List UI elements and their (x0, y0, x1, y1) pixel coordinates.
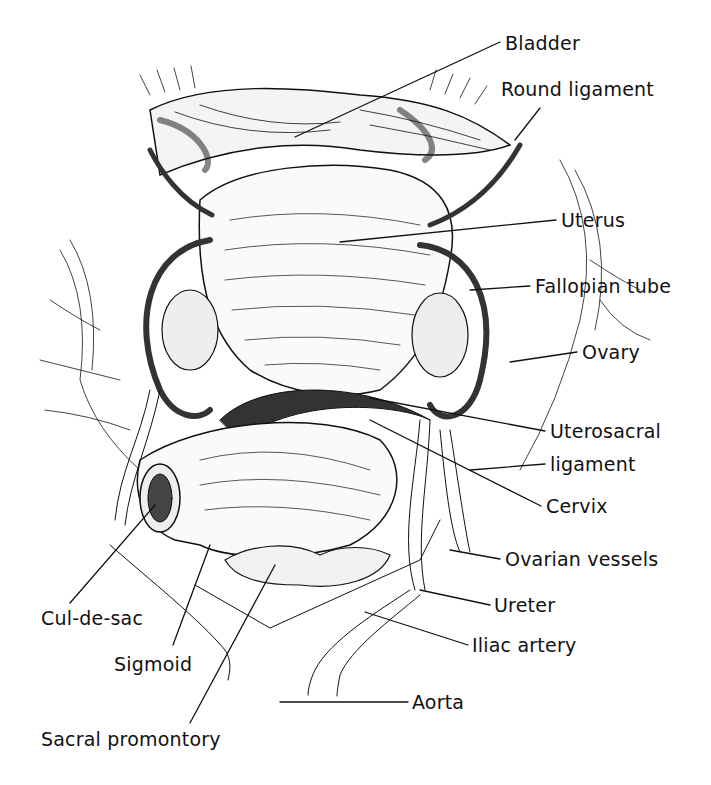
label-ureter: Ureter (494, 596, 555, 615)
label-fallopian-tube: Fallopian tube (535, 277, 671, 296)
label-sacral-promontory: Sacral promontory (41, 730, 221, 749)
label-round-ligament: Round ligament (501, 80, 654, 99)
label-aorta: Aorta (412, 693, 464, 712)
label-ovary: Ovary (582, 343, 640, 362)
uterus-shape (199, 165, 452, 394)
label-cervix: Cervix (546, 497, 608, 516)
label-uterus: Uterus (561, 211, 625, 230)
label-sigmoid: Sigmoid (114, 655, 192, 674)
label-ovarian-vessels: Ovarian vessels (505, 550, 658, 569)
label-iliac-artery: Iliac artery (472, 636, 576, 655)
sigmoid-shape (137, 423, 397, 557)
label-uterosacral-ligament: Uterosacral (550, 422, 661, 441)
anatomy-illustration (0, 0, 711, 785)
sacral-promontory-shape (225, 546, 390, 586)
label-cul-de-sac: Cul-de-sac (41, 609, 143, 628)
label-uterosacral-ligament-line2: ligament (550, 455, 636, 474)
label-bladder: Bladder (505, 34, 580, 53)
bladder-shape (150, 88, 510, 175)
